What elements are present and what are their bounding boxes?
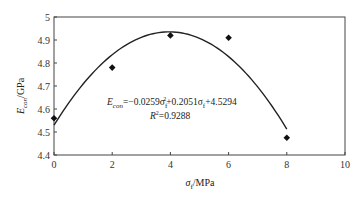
x-tick-label: 10 [340, 159, 350, 170]
y-axis-label: Econ/GPa [15, 78, 29, 114]
data-point-marker [109, 64, 116, 71]
x-tick-label: 2 [110, 159, 115, 170]
x-tick-label: 8 [284, 159, 289, 170]
fit-equation: Econ=−0.0259σf2+0.2051σf+4.5294 [107, 96, 237, 110]
y-tick-label: 4.7 [38, 81, 51, 92]
y-tick-label: 5 [45, 12, 50, 23]
r-squared-label: R2=0.9288 [150, 110, 190, 121]
y-tick-label: 4.9 [38, 35, 51, 46]
data-point-marker [284, 134, 291, 141]
data-point-marker [225, 34, 232, 41]
y-tick-label: 4.6 [38, 104, 51, 115]
data-point-marker [167, 32, 174, 39]
x-tick-label: 4 [168, 159, 173, 170]
y-tick-label: 4.5 [38, 127, 51, 138]
y-tick-label: 4.8 [38, 58, 51, 69]
x-tick-label: 6 [226, 159, 231, 170]
x-tick-label: 0 [52, 159, 57, 170]
x-axis-label: σf/MPa [186, 177, 215, 191]
y-tick-label: 4.4 [38, 150, 51, 161]
